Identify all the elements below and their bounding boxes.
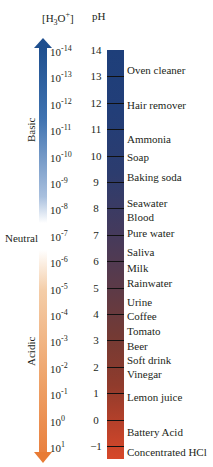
substance-label: Ammonia <box>127 133 171 145</box>
ph-value: 7 <box>90 229 102 241</box>
concentration-header: [H3O+] <box>42 10 74 27</box>
ph-value: 8 <box>90 202 102 214</box>
ph-value: 14 <box>90 44 102 56</box>
ph-value: 9 <box>90 176 102 188</box>
concentration-value: 101 <box>50 440 65 454</box>
ph-tick <box>107 235 124 236</box>
ph-tick <box>107 261 124 262</box>
concentration-value: 10-8 <box>50 202 68 216</box>
concentration-value: 10-1 <box>50 387 68 401</box>
substance-label: Hair remover <box>127 99 186 111</box>
ph-tick <box>107 182 124 183</box>
ph-tick <box>107 208 124 209</box>
concentration-value: 10-10 <box>50 150 72 164</box>
ph-value: 4 <box>90 308 102 320</box>
substance-label: Coffee <box>127 310 157 322</box>
concentration-value: 10-4 <box>50 308 68 322</box>
concentration-value: 10-13 <box>50 70 72 84</box>
ph-value: 10 <box>90 150 102 162</box>
concentration-value: 10-7 <box>50 229 68 243</box>
ph-tick <box>107 129 124 130</box>
concentration-value: 10-3 <box>50 334 68 348</box>
ph-tick <box>107 393 124 394</box>
ph-tick <box>107 446 124 447</box>
ph-value: 6 <box>90 255 102 267</box>
basic-label: Basic <box>25 118 37 142</box>
neutral-label: Neutral <box>5 232 38 244</box>
ph-tick <box>107 420 124 421</box>
concentration-value: 10-2 <box>50 361 68 375</box>
substance-label: Beer <box>127 340 148 352</box>
substance-label: Vinegar <box>127 368 162 380</box>
ph-tick <box>107 340 124 341</box>
ph-value: 12 <box>90 97 102 109</box>
substance-label: Urine <box>127 296 152 308</box>
substance-label: Pure water <box>127 227 174 239</box>
concentration-value: 10-14 <box>50 44 72 58</box>
ph-value: 3 <box>90 334 102 346</box>
substance-label: Tomato <box>127 325 160 337</box>
concentration-value: 100 <box>50 414 65 428</box>
substance-label: Lemon juice <box>127 391 182 403</box>
concentration-value: 10-6 <box>50 255 68 269</box>
ph-tick <box>107 314 124 315</box>
substance-label: Saliva <box>127 246 155 258</box>
substance-label: Milk <box>127 262 148 274</box>
substance-label: Concentrated HCl <box>127 446 207 458</box>
acidic-label: Acidic <box>25 337 37 366</box>
ph-value: 2 <box>90 361 102 373</box>
substance-label: Soft drink <box>127 354 171 366</box>
ph-tick <box>107 288 124 289</box>
ph-tick <box>107 156 124 157</box>
ph-value: 5 <box>90 282 102 294</box>
ph-value: 11 <box>90 123 102 135</box>
ph-tick <box>107 367 124 368</box>
ph-tick <box>107 76 124 77</box>
substance-label: Battery Acid <box>127 426 183 438</box>
concentration-value: 10-9 <box>50 176 68 190</box>
substance-label: Blood <box>127 211 154 223</box>
ph-value: 1 <box>90 387 102 399</box>
concentration-value: 10-12 <box>50 97 72 111</box>
substance-label: Baking soda <box>127 171 182 183</box>
ph-value: −1 <box>90 440 102 452</box>
substance-label: Rainwater <box>127 277 172 289</box>
substance-label: Oven cleaner <box>127 64 185 76</box>
concentration-value: 10-11 <box>50 123 71 137</box>
ph-value: 0 <box>90 414 102 426</box>
ph-header: pH <box>92 10 105 22</box>
ph-value: 13 <box>90 70 102 82</box>
concentration-value: 10-5 <box>50 282 68 296</box>
ph-color-bar <box>107 50 124 459</box>
substance-label: Seawater <box>127 197 167 209</box>
substance-label: Soap <box>127 151 149 163</box>
ph-tick <box>107 103 124 104</box>
